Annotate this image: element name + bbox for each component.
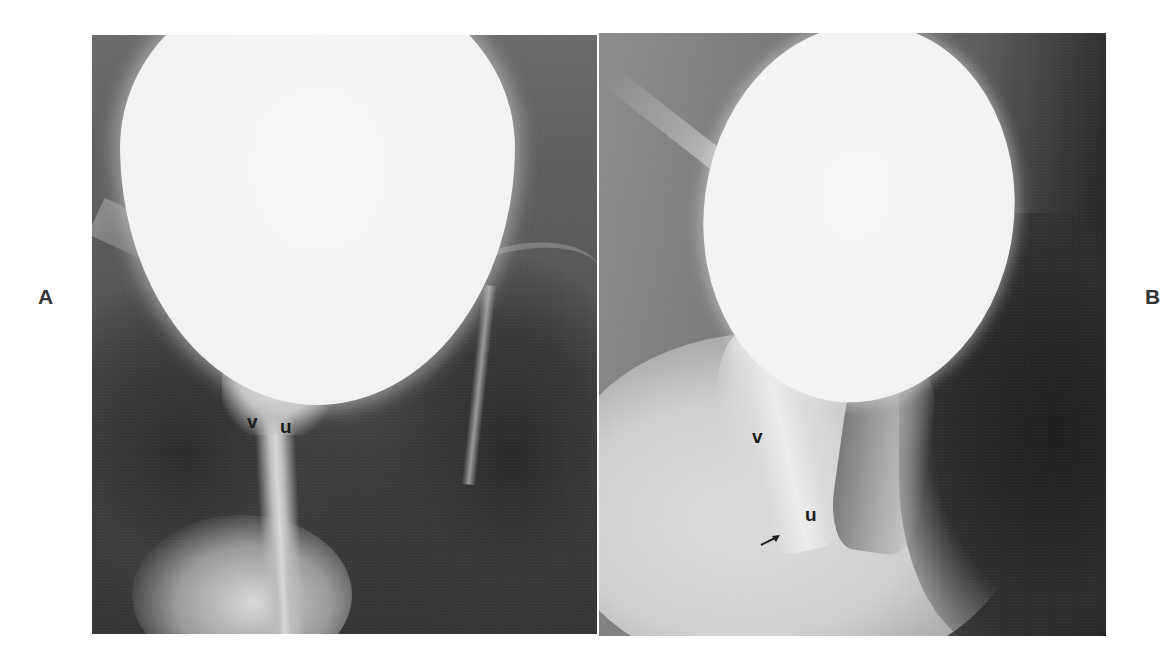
annotation-v-panel-b: v: [752, 427, 763, 446]
panel-label-b: B: [1145, 286, 1160, 307]
radiograph-panel-a: [92, 35, 597, 634]
annotation-u-panel-a: u: [280, 417, 292, 436]
arrow-indicator-icon: [760, 533, 782, 547]
panel-label-a: A: [38, 286, 53, 307]
radiograph-panel-b: [599, 33, 1106, 636]
annotation-v-panel-a: v: [247, 412, 258, 431]
annotation-u-panel-b: u: [805, 505, 817, 524]
